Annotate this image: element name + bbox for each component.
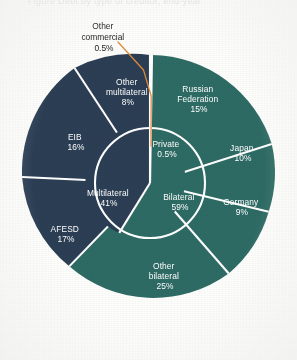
label-other-commercial: Other commercial 0.5% — [81, 21, 126, 53]
donut-chart: Multilateral 41% Bilateral 59% Private 0… — [0, 0, 297, 360]
label-eib: EIB 16% — [67, 132, 85, 152]
callout-other-commercial: Other commercial 0.5% — [81, 21, 126, 53]
donut-chart-svg: Multilateral 41% Bilateral 59% Private 0… — [0, 0, 297, 360]
